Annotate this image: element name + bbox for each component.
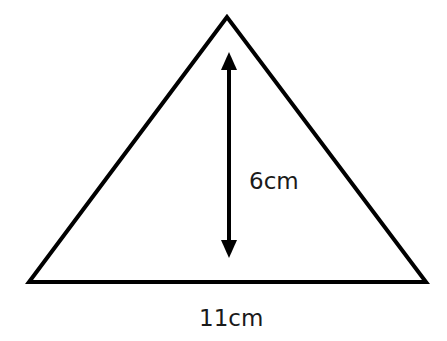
triangle-diagram: [0, 0, 447, 341]
height-label: 6cm: [249, 170, 299, 193]
arrow-up-icon: [221, 52, 237, 70]
base-label: 11cm: [199, 307, 263, 330]
arrow-down-icon: [221, 240, 237, 258]
